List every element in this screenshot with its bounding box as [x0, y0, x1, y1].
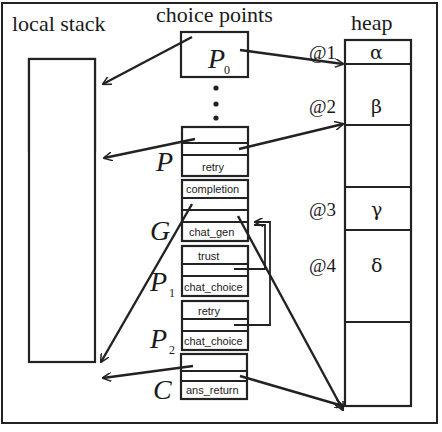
c-label: C	[153, 374, 172, 405]
heap-cell-beta: β	[371, 95, 382, 117]
arrow-c-to-stack	[103, 366, 193, 378]
p-cell-retry: retry	[202, 161, 225, 173]
p0-subscript: 0	[224, 63, 230, 77]
g-cell-completion: completion	[186, 183, 239, 195]
p1-cell-trust: trust	[198, 250, 219, 262]
arrow-g-to-stack	[101, 204, 192, 362]
heap-addr-2: @2	[309, 96, 336, 117]
p1-cell-chat-choice: chat_choice	[184, 281, 243, 293]
choice-point-g: completion chat_gen G	[150, 180, 248, 246]
p2-label: P	[149, 323, 167, 354]
heap-cell-delta: δ	[371, 254, 382, 276]
heap-block: α β γ δ @1 @2 @3 @4	[309, 40, 411, 406]
p-label: P	[155, 146, 173, 177]
p2-subscript: 2	[169, 343, 175, 357]
p1-subscript: 1	[169, 286, 175, 300]
choice-points-title: choice points	[156, 2, 273, 27]
choice-point-p: retry P	[155, 127, 248, 177]
choice-point-p2: retry chat_choice P 2	[149, 301, 248, 357]
local-stack-block	[29, 59, 95, 362]
heap-title: heap	[351, 10, 393, 35]
heap-cell-alpha: α	[370, 41, 383, 63]
memory-layout-diagram: local stack choice points heap P 0 retry…	[0, 0, 442, 432]
local-stack-title: local stack	[12, 11, 105, 36]
g-cell-chat-gen: chat_gen	[189, 226, 234, 238]
p1-label: P	[149, 266, 167, 297]
c-cell-ans-return: ans_return	[186, 384, 239, 396]
g-label: G	[150, 215, 170, 246]
arrow-p-to-heap	[239, 124, 343, 149]
heap-addr-3: @3	[309, 199, 336, 220]
heap-addr-4: @4	[309, 255, 336, 276]
p0-label: P	[207, 43, 225, 74]
heap-cell-gamma: γ	[371, 198, 382, 220]
ellipsis-dots	[213, 85, 218, 120]
arrow-p0-to-stack	[103, 37, 192, 84]
p2-cell-chat-choice: chat_choice	[184, 335, 243, 347]
choice-point-c: ans_return C	[153, 354, 247, 405]
p2-cell-retry: retry	[198, 305, 221, 317]
